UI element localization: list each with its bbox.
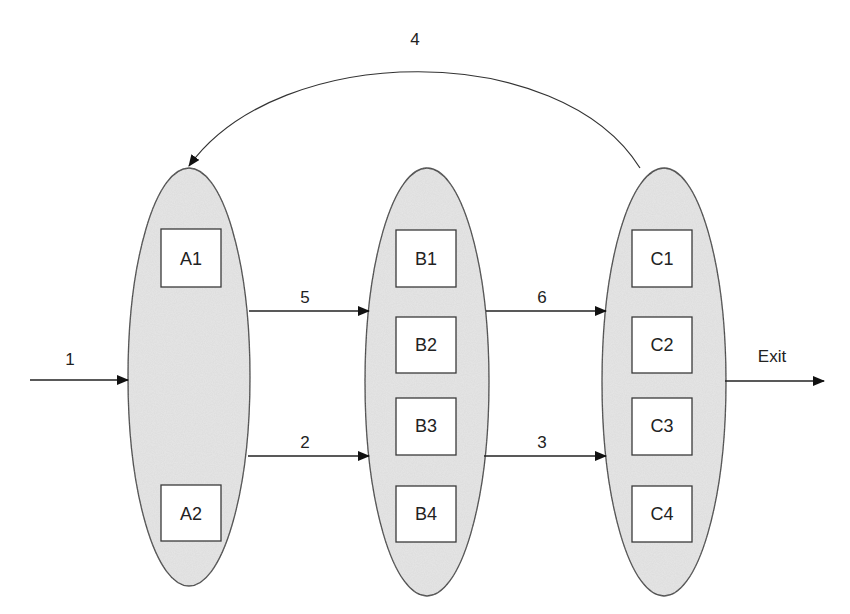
box-c3-label: C3 xyxy=(650,416,673,436)
box-a2-label: A2 xyxy=(180,504,202,524)
edge-1-entry: 1 xyxy=(30,350,128,380)
box-c1: C1 xyxy=(632,230,692,287)
box-b4-label: B4 xyxy=(415,504,437,524)
box-b4: B4 xyxy=(396,486,456,542)
box-a1: A1 xyxy=(161,229,221,287)
flow-diagram: A1 A2 B1 B2 B3 B4 C1 C2 C3 C4 1 xyxy=(0,0,850,614)
edge-5-label: 5 xyxy=(300,288,309,307)
edge-6-label: 6 xyxy=(537,288,546,307)
edge-exit: Exit xyxy=(725,347,824,381)
box-c2-label: C2 xyxy=(650,335,673,355)
edge-3: 3 xyxy=(484,433,606,456)
box-b2: B2 xyxy=(396,317,456,373)
box-c4-label: C4 xyxy=(650,504,673,524)
edge-4-label: 4 xyxy=(410,30,419,49)
edge-6: 6 xyxy=(486,288,606,311)
box-b3-label: B3 xyxy=(415,416,437,436)
edge-3-label: 3 xyxy=(537,433,546,452)
exit-label: Exit xyxy=(758,347,787,366)
box-b1: B1 xyxy=(396,230,456,287)
box-c4: C4 xyxy=(632,486,692,542)
edge-1-label: 1 xyxy=(65,350,74,369)
box-a1-label: A1 xyxy=(180,249,202,269)
box-c3: C3 xyxy=(632,398,692,455)
edge-5: 5 xyxy=(249,288,369,311)
edge-2: 2 xyxy=(248,433,369,456)
box-c2: C2 xyxy=(632,317,692,373)
box-b3: B3 xyxy=(396,398,456,455)
box-b1-label: B1 xyxy=(415,249,437,269)
edge-2-label: 2 xyxy=(300,433,309,452)
edge-4-feedback: 4 xyxy=(189,30,640,168)
box-b2-label: B2 xyxy=(415,335,437,355)
box-c1-label: C1 xyxy=(650,249,673,269)
box-a2: A2 xyxy=(161,485,221,541)
